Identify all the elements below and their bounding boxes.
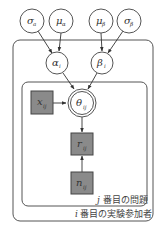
svg-text:i: i (104, 63, 106, 69)
svg-text:ij: ij (83, 145, 87, 152)
svg-text:番目の問題: 番目の問題 (103, 194, 148, 205)
svg-text:α: α (52, 57, 59, 68)
svg-text:β: β (129, 21, 133, 28)
svg-text:ij: ij (43, 103, 47, 110)
node-theta-ij: θ ij (68, 89, 96, 117)
svg-text:i: i (59, 63, 61, 69)
node-sigma-beta: σ β (117, 9, 141, 33)
edge-alpha-to-theta (63, 73, 74, 89)
svg-text:α: α (62, 21, 66, 27)
svg-text:ij: ij (83, 104, 87, 111)
svg-text:i: i (75, 209, 78, 219)
svg-text:a: a (33, 21, 36, 27)
outer-plate-label: i 番目の実験参加者 (75, 208, 152, 219)
node-x-ij: x ij (31, 91, 53, 114)
edge-mu-beta-to-beta (101, 33, 102, 51)
svg-text:番目の実験参加者: 番目の実験参加者 (80, 208, 152, 219)
svg-text:θ: θ (76, 97, 82, 108)
edge-beta-to-theta (88, 73, 97, 89)
inner-plate-label: j 番目の問題 (95, 194, 148, 205)
svg-text:β: β (101, 21, 105, 28)
node-r-ij: r ij (71, 133, 93, 155)
node-beta-i: β i (91, 52, 113, 74)
node-sigma-alpha: σ a (20, 9, 44, 33)
node-alpha-i: α i (46, 52, 68, 74)
svg-text:j: j (95, 195, 100, 205)
svg-text:β: β (96, 57, 103, 68)
node-n-ij: n ij (71, 172, 93, 194)
node-mu-alpha: μ α (49, 9, 73, 33)
edge-sigma-alpha-to-alpha (38, 31, 52, 53)
svg-text:ij: ij (83, 184, 87, 191)
node-mu-beta: μ β (89, 9, 113, 33)
graphical-model-diagram: σ a μ α μ β σ β α i β i x ij θ ij (0, 0, 159, 229)
edge-sigma-beta-to-beta (108, 31, 123, 53)
svg-text:n: n (76, 177, 82, 188)
edge-mu-alpha-to-alpha (59, 33, 61, 51)
